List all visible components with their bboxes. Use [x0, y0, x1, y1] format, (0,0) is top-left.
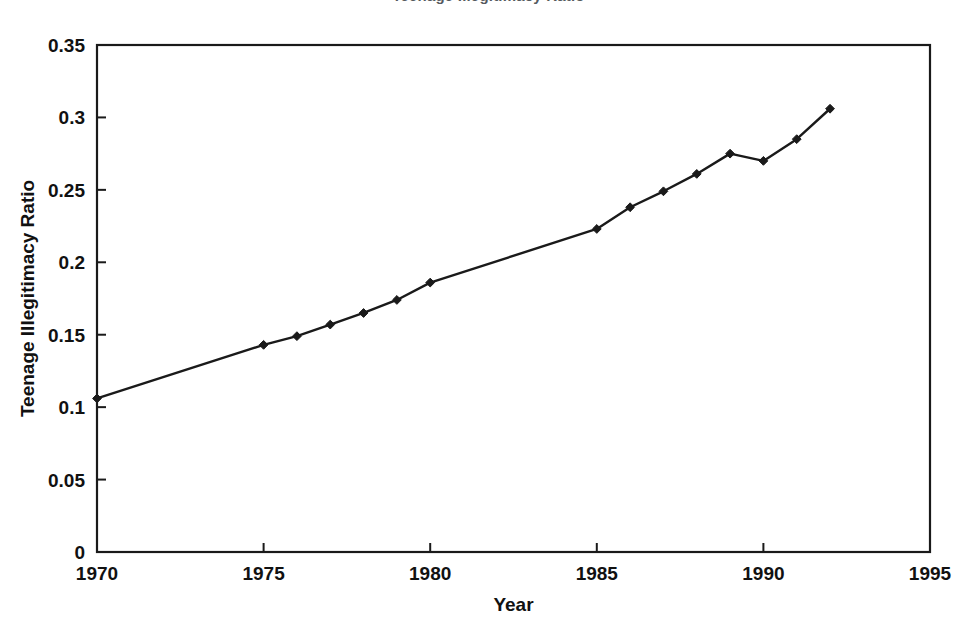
y-axis-tick-label: 0.2 — [59, 252, 85, 273]
chart-figure: Teenage Illegitimacy Ratio 00.050.10.150… — [0, 0, 977, 620]
y-axis-tick-label: 0.15 — [48, 325, 85, 346]
x-axis-tick-label: 1995 — [909, 563, 952, 584]
y-axis-tick-label: 0.1 — [59, 397, 86, 418]
y-axis-label: Teenage Illegitimacy Ratio — [17, 180, 38, 417]
plot-frame — [97, 45, 930, 552]
data-point-marker — [293, 332, 302, 341]
y-axis-tick-label: 0.25 — [48, 180, 85, 201]
data-point-marker — [392, 296, 401, 305]
x-axis-tick-label: 1985 — [576, 563, 619, 584]
data-point-marker — [426, 278, 435, 287]
y-axis-tick-label: 0.3 — [59, 107, 85, 128]
x-axis-tick-label: 1980 — [409, 563, 451, 584]
data-point-marker — [93, 394, 102, 403]
y-axis-tick-label: 0 — [74, 542, 85, 563]
y-axis-tick-label: 0.05 — [48, 470, 85, 491]
data-point-marker — [326, 320, 335, 329]
x-axis-tick-label: 1970 — [76, 563, 118, 584]
data-series-line — [97, 109, 830, 399]
y-axis-tick-label: 0.35 — [48, 35, 85, 56]
line-chart-plot: 00.050.10.150.20.250.30.3519701975198019… — [0, 0, 977, 620]
data-point-marker — [359, 309, 368, 318]
data-point-marker — [259, 340, 268, 349]
data-point-marker — [659, 187, 668, 196]
x-axis-label: Year — [493, 594, 534, 615]
x-axis-tick-label: 1975 — [242, 563, 285, 584]
x-axis-tick-label: 1990 — [742, 563, 784, 584]
